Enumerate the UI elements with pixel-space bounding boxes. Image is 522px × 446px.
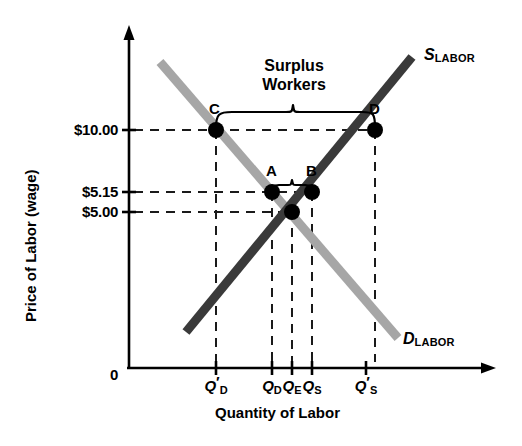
demand-curve-label: DLABOR <box>403 330 455 348</box>
q-sub: S <box>314 384 321 396</box>
point-label-b: B <box>306 162 317 179</box>
y-axis-title: Price of Labor (wage) <box>22 169 39 322</box>
q-base: Q <box>282 377 294 394</box>
q-base: Q <box>302 377 314 394</box>
q-base: Q <box>204 377 216 394</box>
demand-sub: LABOR <box>415 336 455 348</box>
x-tick-label-qs: QS <box>295 377 329 394</box>
x-tick-label-qs-prime: Q′S <box>346 377 386 394</box>
y-tick-label-515: $5.15 <box>48 183 118 200</box>
x-axis-title: Quantity of Labor <box>215 404 340 421</box>
marker-point-c[interactable] <box>208 122 224 138</box>
supply-base: S <box>424 46 435 63</box>
x-axis-arrow-icon <box>481 363 496 374</box>
demand-curve <box>160 62 398 338</box>
surplus-workers-annotation: Surplus Workers <box>244 56 344 94</box>
marker-point-d[interactable] <box>367 122 383 138</box>
point-label-c: C <box>209 100 220 117</box>
surplus-line-2: Workers <box>244 75 344 94</box>
q-sub: S <box>370 384 377 396</box>
surplus-line-1: Surplus <box>244 56 344 75</box>
q-base: Q <box>262 377 274 394</box>
y-tick-label-10: $10.00 <box>48 121 118 138</box>
supply-sub: LABOR <box>435 52 475 64</box>
x-tick-label-qd-prime: Q′D <box>196 377 236 394</box>
point-label-a: A <box>266 162 277 179</box>
origin-label: 0 <box>110 366 118 383</box>
q-base: Q <box>355 377 367 394</box>
supply-demand-chart: Price of Labor (wage) $10.00 $5.15 $5.00… <box>0 0 522 446</box>
point-label-d: D <box>369 100 380 117</box>
marker-point-equilibrium[interactable] <box>284 204 300 220</box>
q-sub: D <box>220 384 228 396</box>
marker-point-a[interactable] <box>264 184 280 200</box>
data-point-markers <box>208 122 383 220</box>
supply-curve <box>186 57 412 332</box>
marker-point-b[interactable] <box>304 184 320 200</box>
y-axis-arrow-icon <box>124 25 135 40</box>
supply-curve-label: SLABOR <box>424 46 475 64</box>
demand-base: D <box>403 330 415 347</box>
y-tick-label-500: $5.00 <box>48 203 118 220</box>
